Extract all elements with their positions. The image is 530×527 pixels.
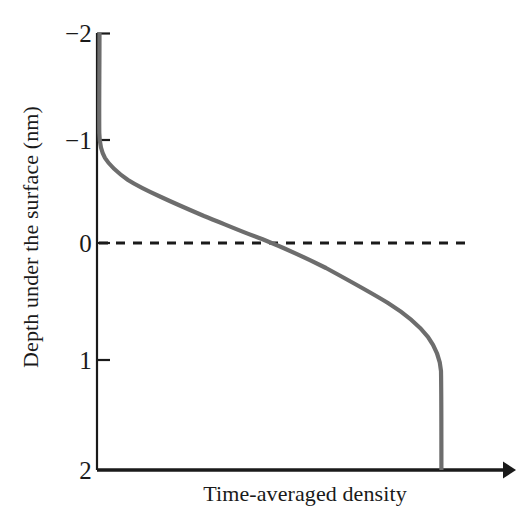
y-tick-label-minus-one: −1 [52, 128, 92, 153]
y-tick-label-minus-two: −2 [52, 21, 92, 46]
x-axis-arrow-icon [503, 462, 516, 479]
density-depth-profile-figure: −2 −1 0 1 2 Time-averaged density Depth … [0, 0, 530, 527]
density-profile-curve [99, 33, 441, 470]
y-tick-label-zero: 0 [52, 231, 92, 256]
y-tick-label-two: 2 [52, 458, 92, 483]
y-tick-label-one: 1 [52, 348, 92, 373]
x-axis-label: Time-averaged density [97, 481, 513, 507]
plot-canvas [0, 0, 530, 527]
